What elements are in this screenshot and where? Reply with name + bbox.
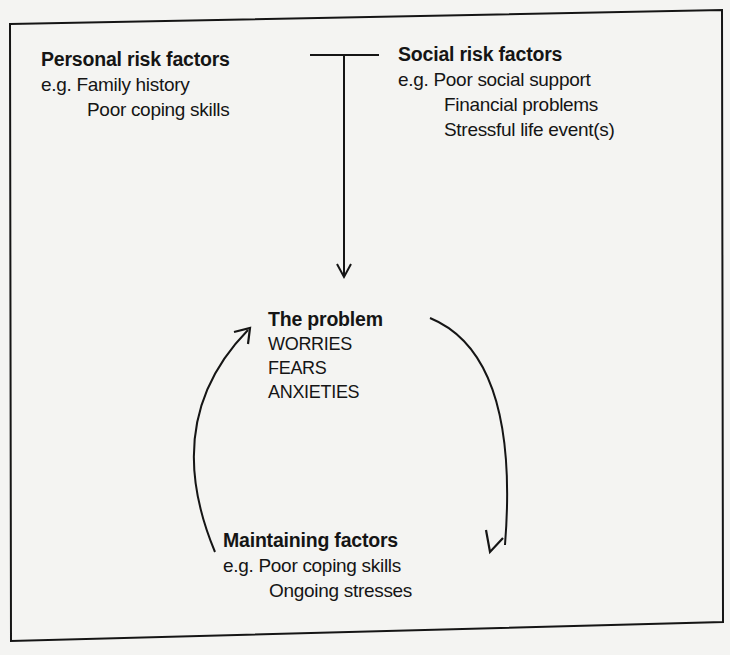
- item-text: Poor social support: [433, 69, 590, 90]
- personal-risk-factors: Personal risk factors e.g. Family histor…: [41, 47, 230, 122]
- eg-prefix: e.g.: [398, 69, 429, 90]
- maintaining-factors: Maintaining factors e.g. Poor coping ski…: [223, 528, 412, 603]
- personal-risk-item-0: e.g. Family history: [41, 72, 230, 97]
- personal-risk-item-1: Poor coping skills: [41, 97, 230, 122]
- arc-maintaining-to-problem: [194, 330, 248, 552]
- social-risk-title: Social risk factors: [398, 42, 615, 67]
- item-text: Family history: [76, 74, 189, 95]
- social-risk-factors: Social risk factors e.g. Poor social sup…: [398, 42, 615, 142]
- eg-prefix: e.g.: [41, 74, 72, 95]
- eg-prefix: e.g.: [223, 555, 254, 576]
- item-text: Poor coping skills: [258, 555, 400, 576]
- problem-title: The problem: [268, 307, 383, 332]
- problem-item-1: FEARS: [268, 356, 383, 380]
- maintaining-title: Maintaining factors: [223, 528, 412, 553]
- problem-item-2: ANXIETIES: [268, 380, 383, 404]
- maintaining-item-1: Ongoing stresses: [223, 578, 412, 603]
- maintaining-item-0: e.g. Poor coping skills: [223, 553, 412, 578]
- arc-problem-to-maintaining: [430, 318, 507, 545]
- social-risk-item-1: Financial problems: [398, 92, 615, 117]
- personal-risk-title: Personal risk factors: [41, 47, 230, 72]
- problem-item-0: WORRIES: [268, 332, 383, 356]
- social-risk-item-0: e.g. Poor social support: [398, 67, 615, 92]
- the-problem: The problem WORRIES FEARS ANXIETIES: [268, 307, 383, 404]
- social-risk-item-2: Stressful life event(s): [398, 117, 615, 142]
- arrow-head-right-arc-icon: [486, 530, 503, 552]
